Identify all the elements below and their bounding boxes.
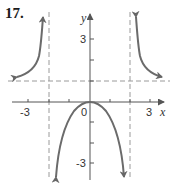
y-axis-label: y xyxy=(80,11,87,25)
left-branch xyxy=(17,17,43,77)
x-tick-label-neg3: -3 xyxy=(20,106,30,118)
graph: -3 0 3 3 -3 x y xyxy=(0,0,179,185)
axes xyxy=(12,14,164,180)
right-branch xyxy=(136,17,162,77)
origin-label: 0 xyxy=(81,106,87,118)
asymptotes xyxy=(8,12,170,180)
y-tick-label-neg3: -3 xyxy=(76,157,86,169)
y-ticks xyxy=(90,39,94,163)
y-tick-label-3: 3 xyxy=(80,33,86,45)
x-tick-label-3: 3 xyxy=(146,106,152,118)
x-axis-label: x xyxy=(159,105,166,119)
